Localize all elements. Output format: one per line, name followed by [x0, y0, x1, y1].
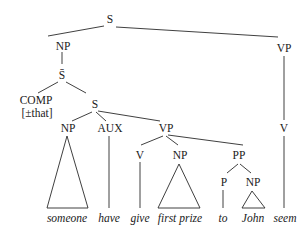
node-sbar: S̄	[59, 69, 65, 81]
edge-s-np2	[72, 112, 92, 121]
node-pp: PP	[233, 149, 246, 161]
edge-sbar-s	[66, 82, 86, 93]
leaf-someone: someone	[47, 212, 87, 224]
edge-vp-v	[141, 136, 163, 145]
edge-s-vp2	[98, 111, 160, 121]
edge-s-np	[48, 26, 104, 36]
tree-leaves: someone have give first prize to John se…	[47, 212, 297, 225]
node-embedded-vp: VP	[159, 122, 174, 134]
leaf-give: give	[130, 212, 149, 225]
edge-vp-np	[166, 136, 178, 145]
node-comp-feature: [±that]	[21, 107, 52, 119]
node-root-s: S	[107, 13, 113, 25]
node-matrix-v: V	[280, 122, 289, 134]
leaf-seem: seem	[274, 212, 297, 224]
leaf-to: to	[219, 212, 228, 224]
node-embedded-s: S	[92, 98, 98, 110]
edge-vp-pp	[168, 135, 243, 145]
node-matrix-vp: VP	[277, 42, 292, 54]
node-comp: COMP	[20, 94, 53, 106]
leaf-first-prize: first prize	[158, 212, 202, 225]
edge-sbar-comp	[38, 82, 58, 93]
node-object-np: NP	[173, 149, 188, 161]
edge-pp-p	[227, 164, 238, 173]
edge-s-vp	[116, 27, 278, 37]
node-embedded-np: NP	[61, 122, 76, 134]
syntax-tree: S NP S̄ COMP [±that] S NP AUX VP V NP PP…	[0, 0, 308, 236]
leaf-have: have	[98, 212, 120, 224]
leaf-john: John	[242, 212, 265, 224]
node-embedded-v: V	[136, 149, 145, 161]
node-aux: AUX	[98, 122, 124, 134]
triangle-someone	[47, 136, 88, 208]
edge-pp-np	[240, 164, 251, 173]
triangle-first-prize	[158, 164, 200, 208]
node-subject-np: NP	[56, 40, 71, 52]
tree-nodes: S NP S̄ COMP [±that] S NP AUX VP V NP PP…	[20, 13, 292, 188]
node-pp-np: NP	[246, 176, 261, 188]
edge-s-aux	[96, 112, 106, 121]
node-p: P	[221, 176, 227, 188]
triangle-john	[242, 191, 265, 208]
